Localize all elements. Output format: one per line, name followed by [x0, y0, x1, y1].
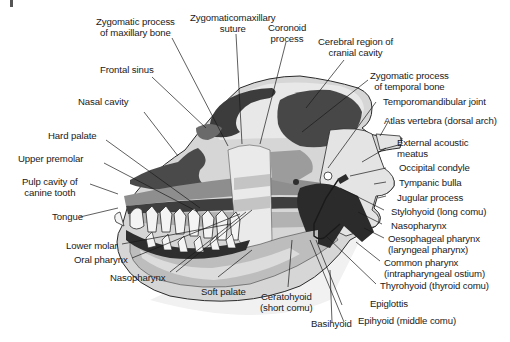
label-ceratohyoid: Ceratohyoid (short comu) [260, 291, 313, 313]
label-atlas-vertebra: Atlas vertebra (dorsal arch) [384, 115, 497, 126]
label-nasopharynx-bottom: Nasopharynx [110, 272, 165, 283]
label-soft-palate: Soft palate [201, 286, 246, 297]
label-upper-premolar: Upper premolar [18, 153, 83, 164]
label-epihyoid: Epihyoid (middle comu) [358, 315, 456, 326]
label-occipital-condyle: Occipital condyle [399, 162, 470, 173]
tmj-condyle [324, 172, 332, 180]
label-frontal-sinus: Frontal sinus [100, 64, 154, 75]
label-lower-molar: Lower molar [66, 240, 118, 251]
label-tympanic-bulla: Tympanic bulla [399, 177, 462, 188]
label-epiglottis: Epiglottis [370, 298, 408, 309]
label-stylohyoid: Stylohyoid (long comu) [391, 206, 486, 217]
label-common-pharynx: Common pharynx (intrapharyngeal ostium) [384, 257, 485, 279]
label-pulp-cavity: Pulp cavity of canine tooth [22, 176, 78, 198]
label-tongue: Tongue [52, 211, 83, 222]
corner-mark [10, 0, 13, 7]
label-external-acoustic-meatus: External acoustic meatus [397, 137, 468, 159]
label-zygomaticomaxillary-suture: Zygomaticomaxillary suture [190, 12, 276, 34]
tmj-dot [293, 179, 299, 185]
label-coronoid-process: Coronoid process [268, 22, 306, 44]
label-hard-palate: Hard palate [48, 130, 97, 141]
label-nasopharynx-right: Nasopharynx [391, 220, 446, 231]
label-temporomandibular-joint: Temporomandibular joint [383, 96, 486, 107]
label-zygomatic-process-temporal: Zygomatic process of temporal bone [370, 70, 449, 92]
label-oral-pharynx: Oral pharynx [74, 254, 128, 265]
label-nasal-cavity: Nasal cavity [78, 96, 129, 107]
label-thyrohyoid: Thyrohyoid (thyroid comu) [380, 280, 489, 291]
label-oesophageal-pharynx: Oesophageal pharynx (laryngeal pharynx) [388, 233, 480, 255]
label-jugular-process: Jugular process [397, 192, 463, 203]
label-zygomatic-process-maxillary: Zygomatic process of maxillary bone [96, 16, 175, 38]
label-basihyoid: Basihyoid [311, 318, 352, 329]
label-cerebral-region: Cerebral region of cranial cavity [318, 36, 393, 58]
diagram-canvas: Zygomatic process of maxillary bone Zygo… [0, 0, 510, 342]
